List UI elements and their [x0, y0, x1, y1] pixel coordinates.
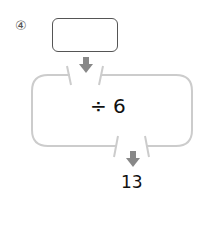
output-value: 13 — [121, 174, 143, 191]
arrow-down-icon — [126, 151, 140, 167]
operation-label: ÷ 6 — [90, 96, 126, 116]
arrow-down-icon — [79, 57, 93, 73]
